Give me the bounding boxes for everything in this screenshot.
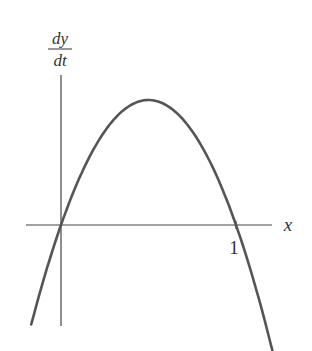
y-label-numerator: dy — [52, 29, 69, 48]
y-label-denominator: dt — [53, 51, 68, 70]
x-tick-label-1: 1 — [229, 237, 239, 258]
x-axis-label: x — [283, 214, 293, 235]
chart-canvas: dy dt x 1 — [0, 0, 312, 351]
